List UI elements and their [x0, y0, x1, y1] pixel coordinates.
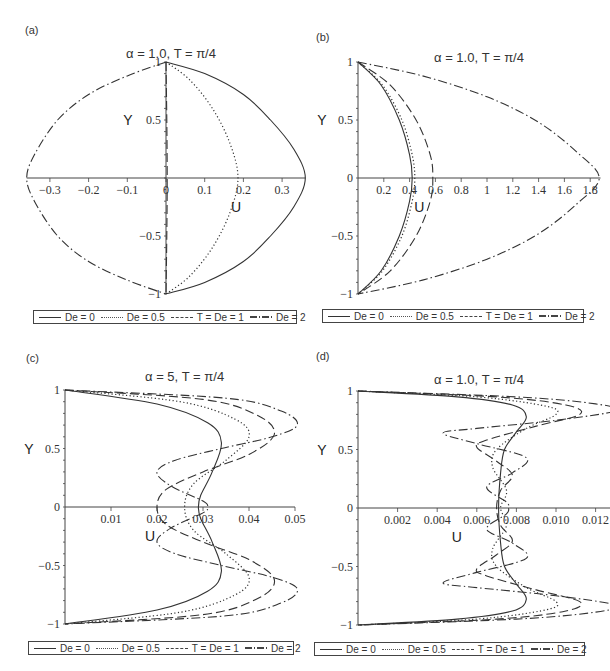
legend-label: De = 0.5	[408, 644, 446, 655]
x-tick-label: 0.004	[424, 513, 451, 527]
y-tick-label: −0.5	[331, 560, 353, 574]
x-tick-label: 0.010	[543, 513, 570, 527]
y-tick-label: 0	[347, 501, 353, 515]
legend-label: T = De = 1	[478, 644, 525, 655]
y-tick-label: 1	[347, 384, 353, 398]
plot-area: 0.0020.0040.0060.0080.0100.01210.50−0.5−…	[0, 0, 610, 671]
legend-item: De = 0.5	[380, 644, 450, 655]
legend: De = 0De = 0.5T = De = 1De = 2	[314, 642, 585, 656]
legend-item: De = 0	[318, 644, 380, 655]
x-tick-label: 0.012	[582, 513, 609, 527]
legend-item: De = 2	[529, 644, 591, 655]
y-tick-label: 0.5	[338, 443, 353, 457]
legend-swatch-dotted-icon	[382, 649, 404, 650]
legend-item: T = De = 1	[450, 644, 529, 655]
legend-label: De = 2	[557, 644, 587, 655]
legend-label: De = 0	[346, 644, 376, 655]
y-tick-label: −1	[340, 618, 353, 632]
x-axis-label: U	[452, 529, 462, 545]
legend-swatch-solid-icon	[320, 649, 342, 650]
x-tick-label: 0.006	[463, 513, 490, 527]
y-axis-label: Y	[317, 442, 327, 458]
legend-swatch-dashed-icon	[452, 649, 474, 650]
axes: 0.0020.0040.0060.0080.0100.01210.50−0.5−…	[317, 384, 610, 632]
legend-swatch-dashdot-icon	[531, 648, 553, 650]
x-tick-label: 0.002	[384, 513, 411, 527]
x-tick-label: 0.008	[503, 513, 530, 527]
panel-d: (d) α = 1.0, T = π/4 0.0020.0040.0060.00…	[0, 0, 610, 671]
